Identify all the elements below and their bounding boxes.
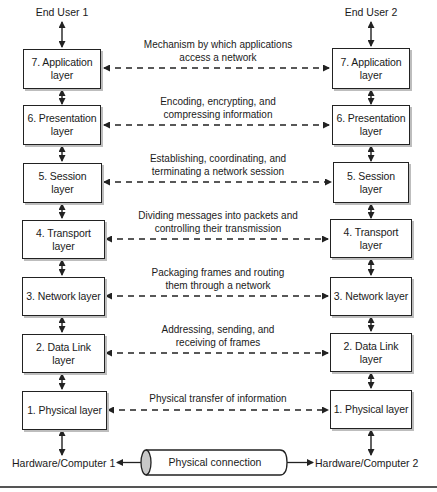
left-application-layer-box: 7. Application layer [23, 49, 101, 89]
desc-line: Physical transfer of information [108, 393, 328, 406]
desc-line: compressing information [108, 109, 328, 122]
end-user-1-label: End User 1 [27, 6, 97, 19]
desc-line: terminating a network session [108, 166, 328, 179]
right-transport-layer-box: 4. Transport layer [330, 219, 412, 258]
data-link-description: Addressing, sending, and receiving of fr… [108, 324, 328, 349]
right-data-link-layer-box: 2. Data Link layer [330, 333, 412, 372]
end-user-2-label: End User 2 [336, 6, 406, 19]
right-application-layer-box: 7. Application layer [332, 48, 410, 89]
right-presentation-layer-box: 6. Presentation layer [332, 105, 410, 145]
application-description: Mechanism by which applications access a… [108, 39, 328, 64]
hardware-computer-1-label: Hardware/Computer 1 [12, 457, 116, 470]
presentation-description: Encoding, encrypting, and compressing in… [108, 96, 328, 121]
desc-line: access a network [108, 52, 328, 65]
desc-line: Dividing messages into packets and [108, 210, 328, 223]
bottom-rule-divider [0, 486, 437, 488]
left-session-layer-box: 5. Session layer [23, 163, 102, 203]
left-transport-layer-box: 4. Transport layer [22, 220, 105, 259]
left-physical-layer-box: 1. Physical layer [22, 391, 107, 430]
left-data-link-layer-box: 2. Data Link layer [22, 334, 105, 373]
desc-line: Packaging frames and routing [108, 267, 328, 280]
desc-line: Addressing, sending, and [108, 324, 328, 337]
desc-line: Establishing, coordinating, and [108, 153, 328, 166]
physical-connection-label: Physical connection [150, 455, 280, 469]
hardware-computer-2-label: Hardware/Computer 2 [315, 457, 425, 470]
right-physical-layer-box: 1. Physical layer [330, 390, 412, 429]
osi-diagram: End User 1 End User 2 7. Application lay… [0, 0, 437, 492]
desc-line: Encoding, encrypting, and [108, 96, 328, 109]
network-description: Packaging frames and routing them throug… [108, 267, 328, 292]
right-network-layer-box: 3. Network layer [330, 277, 412, 316]
physical-description: Physical transfer of information [108, 393, 328, 406]
desc-line: them through a network [108, 280, 328, 293]
session-description: Establishing, coordinating, and terminat… [108, 153, 328, 178]
transport-description: Dividing messages into packets and contr… [108, 210, 328, 235]
desc-line: Mechanism by which applications [108, 39, 328, 52]
desc-line: controlling their transmission [108, 223, 328, 236]
right-session-layer-box: 5. Session layer [333, 162, 409, 203]
left-network-layer-box: 3. Network layer [22, 277, 105, 316]
desc-line: receiving of frames [108, 337, 328, 350]
left-presentation-layer-box: 6. Presentation layer [23, 105, 101, 145]
